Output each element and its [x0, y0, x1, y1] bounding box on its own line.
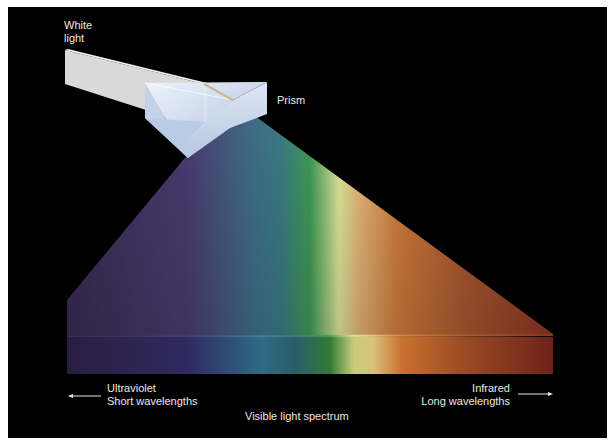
visible-spectrum-label: Visible light spectrum: [245, 410, 349, 423]
white-light-label-line2: light: [64, 32, 84, 45]
spectrum-band: [67, 334, 553, 374]
ultraviolet-label: Ultraviolet: [107, 382, 156, 395]
prism-diagram: White light Prism Ultraviolet Short wave…: [8, 7, 607, 438]
short-wavelength-arrow: [68, 394, 101, 398]
spectrum-fan: [67, 100, 553, 338]
long-wavelength-arrow: [518, 392, 553, 396]
long-wavelengths-label: Long wavelengths: [421, 395, 510, 408]
prism-label: Prism: [277, 94, 305, 107]
white-light-label-line1: White: [64, 19, 92, 32]
short-wavelengths-label: Short wavelengths: [107, 395, 198, 408]
infrared-label: Infrared: [472, 382, 510, 395]
prism-illustration: [8, 7, 607, 438]
